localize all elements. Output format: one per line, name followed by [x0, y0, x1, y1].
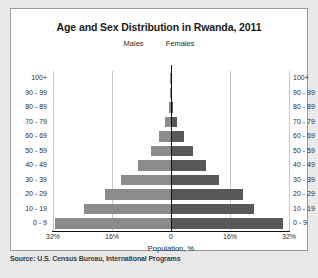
x-axis-tick-label: 16%: [105, 233, 119, 240]
bar-female: [171, 160, 206, 171]
chart-page: Age and Sex Distribution in Rwanda, 2011…: [0, 0, 318, 278]
y-axis-label: 60 - 69: [293, 129, 315, 144]
source-note: Source: U.S. Census Bureau, Internationa…: [10, 255, 180, 262]
gridline: [289, 71, 290, 231]
y-axis-labels-left: 100+90 - 9980 - 8970 - 7960 - 6950 - 594…: [11, 71, 51, 231]
y-axis-label: 100+: [293, 71, 309, 86]
y-axis-labels-right: 100+90 - 9980 - 8970 - 7960 - 6950 - 594…: [289, 71, 318, 231]
y-axis-label: 40 - 49: [25, 158, 47, 173]
chart-title: Age and Sex Distribution in Rwanda, 2011: [11, 21, 307, 33]
y-axis-label: 0 - 9: [293, 216, 307, 231]
y-axis-label: 30 - 39: [293, 173, 315, 188]
x-axis-tick-label: 32%: [282, 233, 296, 240]
y-axis-label: 70 - 79: [293, 115, 315, 130]
bar-female: [171, 218, 283, 229]
x-axis-tick-label: 32%: [46, 233, 60, 240]
bar-female: [171, 146, 193, 157]
bar-female: [171, 189, 243, 200]
y-axis-label: 20 - 29: [25, 187, 47, 202]
series-legend: Males Females: [11, 39, 307, 48]
y-axis-label: 50 - 59: [293, 144, 315, 159]
y-axis-label: 80 - 89: [293, 100, 315, 115]
legend-label-females: Females: [166, 39, 195, 48]
y-axis-label: 0 - 9: [33, 216, 47, 231]
bar-male: [121, 175, 171, 186]
bar-male: [55, 218, 171, 229]
y-axis-label: 100+: [31, 71, 47, 86]
bar-male: [84, 204, 171, 215]
bar-female: [171, 204, 254, 215]
y-axis-label: 10 - 19: [293, 202, 315, 217]
bar-male: [138, 160, 171, 171]
y-axis-label: 20 - 29: [293, 187, 315, 202]
y-axis-label: 10 - 19: [25, 202, 47, 217]
y-axis-label: 50 - 59: [25, 144, 47, 159]
x-axis-title: Population, %: [53, 244, 289, 253]
chart-card: Age and Sex Distribution in Rwanda, 2011…: [10, 8, 308, 251]
y-axis-label: 80 - 89: [25, 100, 47, 115]
bar-female: [171, 175, 219, 186]
y-axis-label: 70 - 79: [25, 115, 47, 130]
bar-male: [159, 131, 171, 142]
y-axis-label: 60 - 69: [25, 129, 47, 144]
x-axis-baseline: [52, 231, 290, 232]
y-axis-label: 40 - 49: [293, 158, 315, 173]
bar-male: [151, 146, 171, 157]
x-axis-tick-label: 0: [169, 233, 173, 240]
bar-female: [171, 131, 184, 142]
y-axis-label: 30 - 39: [25, 173, 47, 188]
x-axis-tick-label: 16%: [223, 233, 237, 240]
y-axis-label: 90 - 99: [25, 86, 47, 101]
plot-area: [53, 71, 289, 231]
zero-axis-line: [171, 65, 172, 231]
bar-male: [105, 189, 171, 200]
y-axis-label: 90 - 99: [293, 86, 315, 101]
legend-label-males: Males: [124, 39, 144, 48]
